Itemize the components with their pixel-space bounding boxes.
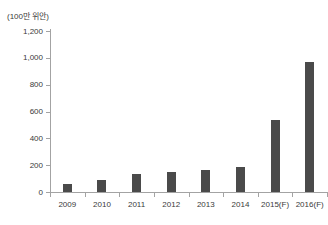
- y-axis-tick: [46, 85, 50, 86]
- bar-2012: [167, 172, 176, 192]
- x-axis-tick: [189, 192, 190, 197]
- x-axis-label-2016(F): 2016(F): [292, 200, 327, 209]
- x-axis-label-2014: 2014: [223, 200, 258, 209]
- bar-2016(F): [305, 62, 314, 192]
- x-axis-tick: [292, 192, 293, 197]
- y-axis-tick: [46, 58, 50, 59]
- x-axis-label-2009: 2009: [50, 200, 85, 209]
- x-axis-label-2013: 2013: [189, 200, 224, 209]
- x-axis-tick: [119, 192, 120, 197]
- bar-2009: [63, 184, 72, 192]
- bar-2011: [132, 174, 141, 192]
- y-axis-unit-label: (100만 위안): [7, 10, 49, 21]
- y-axis-tick: [46, 165, 50, 166]
- y-axis-tick-label: 1,200: [0, 27, 43, 36]
- x-axis-tick: [85, 192, 86, 197]
- y-axis-tick-label: 200: [0, 161, 43, 170]
- y-axis-tick-label: 1,000: [0, 53, 43, 62]
- y-axis-line: [50, 29, 51, 193]
- y-axis-tick-label: 400: [0, 134, 43, 143]
- x-axis-label-2010: 2010: [85, 200, 120, 209]
- x-axis-tick: [258, 192, 259, 197]
- bar-2014: [236, 167, 245, 192]
- x-axis-label-2012: 2012: [154, 200, 189, 209]
- y-axis-tick-label: 600: [0, 107, 43, 116]
- x-axis-tick: [50, 192, 51, 197]
- x-axis-label-2015(F): 2015(F): [258, 200, 293, 209]
- bar-2015(F): [271, 120, 280, 192]
- y-axis-tick-label: 0: [0, 188, 43, 197]
- y-axis-tick-label: 800: [0, 80, 43, 89]
- y-axis-tick: [46, 112, 50, 113]
- y-axis-tick: [46, 138, 50, 139]
- bar-2010: [97, 180, 106, 192]
- x-axis-tick: [223, 192, 224, 197]
- bar-chart: (100만 위안) 02004006008001,0001,200 200920…: [0, 0, 328, 225]
- y-axis-tick: [46, 31, 50, 32]
- x-axis-label-2011: 2011: [119, 200, 154, 209]
- bar-2013: [201, 170, 210, 192]
- x-axis-tick: [154, 192, 155, 197]
